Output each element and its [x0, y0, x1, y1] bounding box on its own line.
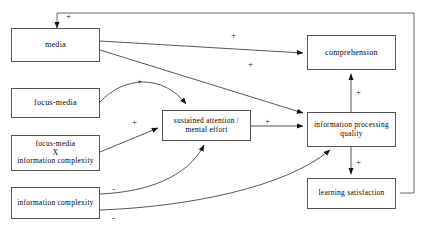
path-model-diagram: mediafocus-mediafocus-mediaXinformation … — [0, 0, 424, 229]
node-focus_media_x_ic: focus-mediaXinformation complexity — [11, 135, 100, 171]
edge-media-to-comprehension — [100, 41, 303, 53]
edge-information-complexity-to-information-processing-quality — [100, 150, 330, 210]
sign-ipq-ls: + — [356, 158, 361, 167]
node-sustained_attention: sustained attention /mental effort — [162, 110, 251, 141]
node-information_processing_quality: information processingquality — [307, 112, 396, 147]
sign-focusmedia-sa: + — [137, 77, 142, 86]
edge-interaction-to-sustained-attention — [100, 128, 158, 152]
sign-ic-ipq: - — [112, 214, 115, 223]
node-label-focus_media_x_ic: focus-mediaXinformation complexity — [12, 140, 99, 166]
edge-media-to-information-processing-quality — [100, 50, 303, 113]
edge-focus-media-to-sustained-attention — [100, 82, 186, 104]
node-media: media — [11, 28, 100, 62]
node-label-comprehension: comprehension — [308, 48, 395, 57]
node-information_complexity: information complexity — [11, 187, 100, 219]
sign-feedback-media: + — [66, 12, 71, 21]
sign-comp-ipq: + — [356, 88, 361, 97]
node-label-information_complexity: information complexity — [12, 199, 99, 208]
sign-media-comprehension: + — [231, 31, 236, 40]
node-label-media: media — [12, 40, 99, 49]
node-comprehension: comprehension — [307, 35, 396, 70]
node-label-information_processing_quality: information processingquality — [308, 121, 395, 138]
edge-information-complexity-to-sustained-attention — [100, 145, 204, 194]
sign-media-ipq: + — [248, 60, 253, 69]
node-label-sustained_attention: sustained attention /mental effort — [163, 117, 250, 134]
sign-ic-sa: - — [112, 185, 115, 194]
node-learning_satisfaction: learning satisfaction — [307, 178, 396, 209]
node-focus_media: focus-media — [11, 88, 100, 118]
node-label-focus_media: focus-media — [12, 98, 99, 107]
node-label-learning_satisfaction: learning satisfaction — [308, 189, 395, 198]
sign-interaction-sa: + — [132, 118, 137, 127]
sign-sa-ipq: + — [265, 117, 270, 126]
